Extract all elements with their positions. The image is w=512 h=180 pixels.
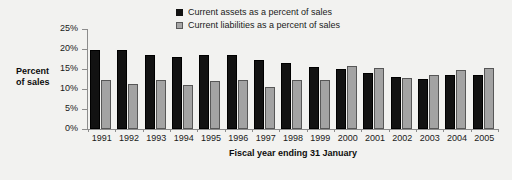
bar-current-liabilities	[265, 87, 275, 129]
bar-current-assets	[199, 55, 209, 129]
bar-current-liabilities	[101, 80, 111, 129]
bar-current-assets	[281, 63, 291, 129]
chart-legend: Current assets as a percent of sales Cur…	[176, 7, 340, 31]
bar-current-liabilities	[374, 68, 384, 129]
bar-current-liabilities	[156, 80, 166, 129]
y-axis-tick-label: 20%	[30, 44, 78, 53]
bar-current-liabilities	[456, 70, 466, 129]
y-axis-tick-mark	[82, 49, 87, 50]
bar-current-assets	[418, 79, 428, 129]
x-axis-tick-mark	[498, 129, 499, 132]
x-axis-tick-mark	[334, 129, 335, 132]
x-axis-tick-mark	[471, 129, 472, 132]
legend-swatch-current-assets	[176, 9, 183, 16]
x-axis-tick-mark	[143, 129, 144, 132]
bar-current-assets	[172, 57, 182, 129]
bar-group	[307, 29, 334, 129]
y-axis-tick-mark	[82, 69, 87, 70]
bar-current-liabilities	[484, 68, 494, 129]
y-axis-tick-mark	[82, 89, 87, 90]
bar-group	[170, 29, 197, 129]
bar-current-liabilities	[347, 66, 357, 129]
bar-group	[279, 29, 306, 129]
x-axis-tick-mark	[252, 129, 253, 132]
x-axis-tick-mark	[279, 129, 280, 132]
bar-group	[252, 29, 279, 129]
bar-group	[115, 29, 142, 129]
bar-current-assets	[254, 60, 264, 129]
bar-group	[88, 29, 115, 129]
bar-group	[334, 29, 361, 129]
bar-current-liabilities	[128, 84, 138, 129]
bar-current-assets	[117, 50, 127, 129]
bar-current-assets	[391, 77, 401, 129]
bar-chart: Current assets as a percent of sales Cur…	[0, 0, 512, 180]
bar-group	[416, 29, 443, 129]
bar-current-assets	[445, 75, 455, 129]
bar-current-liabilities	[183, 85, 193, 129]
y-axis-tick-mark	[82, 129, 87, 130]
x-axis-tick-mark	[88, 129, 89, 132]
bar-current-assets	[90, 50, 100, 129]
x-axis-tick-mark	[416, 129, 417, 132]
x-axis-title: Fiscal year ending 31 January	[88, 148, 498, 158]
plot-area	[88, 29, 498, 129]
y-axis-tick-label: 5%	[30, 104, 78, 113]
x-axis-tick-mark	[197, 129, 198, 132]
bar-current-liabilities	[429, 75, 439, 129]
y-axis-tick-label: 0%	[30, 124, 78, 133]
bar-current-assets	[227, 55, 237, 129]
x-axis-tick-mark	[443, 129, 444, 132]
x-axis-tick-mark	[170, 129, 171, 132]
bar-group	[197, 29, 224, 129]
x-axis-tick-mark	[389, 129, 390, 132]
legend-swatch-current-liabilities	[176, 22, 183, 29]
x-axis-tick-mark	[361, 129, 362, 132]
bar-group	[361, 29, 388, 129]
x-axis-tick-mark	[307, 129, 308, 132]
y-axis-tick-label: 10%	[30, 84, 78, 93]
bar-group	[225, 29, 252, 129]
x-axis-tick-mark	[115, 129, 116, 132]
bar-current-liabilities	[210, 81, 220, 129]
y-axis-tick-labels: 25%20%15%10%5%0%	[30, 0, 78, 180]
x-axis-tick-label: 2005	[467, 133, 501, 143]
y-axis-tick-mark	[82, 29, 87, 30]
bar-current-liabilities	[292, 80, 302, 129]
bar-group	[389, 29, 416, 129]
y-axis-tick-label: 15%	[30, 64, 78, 73]
bar-current-assets	[473, 75, 483, 129]
bar-current-liabilities	[402, 78, 412, 129]
bar-current-liabilities	[320, 80, 330, 129]
bar-current-assets	[336, 69, 346, 129]
bar-current-assets	[145, 55, 155, 129]
legend-label-current-assets: Current assets as a percent of sales	[188, 7, 332, 18]
legend-item-current-assets: Current assets as a percent of sales	[176, 7, 340, 18]
y-axis-tick-mark	[82, 109, 87, 110]
bar-group	[443, 29, 470, 129]
x-axis-line	[87, 129, 498, 130]
bar-current-assets	[363, 73, 373, 129]
bar-current-assets	[309, 67, 319, 129]
bar-current-liabilities	[238, 80, 248, 129]
y-axis-tick-label: 25%	[30, 24, 78, 33]
bar-group	[471, 29, 498, 129]
x-axis-tick-mark	[225, 129, 226, 132]
bar-group	[143, 29, 170, 129]
